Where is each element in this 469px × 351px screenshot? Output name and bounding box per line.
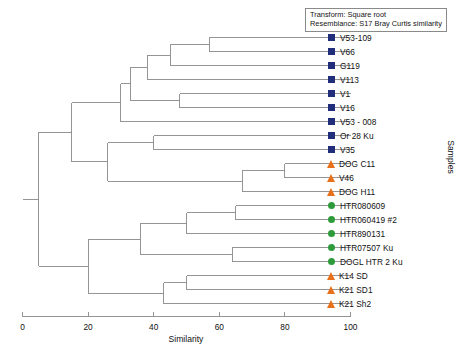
leaf-label: K21 Sh2 <box>339 299 371 309</box>
x-tick-label: 40 <box>149 322 158 332</box>
leaf-row[interactable]: K21 Sh2 <box>327 297 371 311</box>
leaf-row[interactable]: V53 - 008 <box>327 115 376 129</box>
circle-marker-icon <box>328 216 335 223</box>
leaf-label: DOGL HTR 2 Ku <box>340 257 403 267</box>
x-tick-label: 80 <box>280 322 289 332</box>
dendrogram-figure: Transform: Square root Resemblance: S17 … <box>0 0 469 351</box>
leaf-label: G119 <box>340 61 360 71</box>
leaf-label: HTR080609 <box>340 201 385 211</box>
leaf-row[interactable]: HTR060419 #2 <box>327 213 397 227</box>
triangle-marker-icon <box>327 300 335 308</box>
square-marker-icon <box>328 146 335 153</box>
leaf-label: K21 SD1 <box>339 285 373 295</box>
leaf-row[interactable]: K14 SD <box>327 269 368 283</box>
leaf-label: V53 - 008 <box>340 117 376 127</box>
leaf-row[interactable]: V113 <box>327 73 359 87</box>
x-tick-label: 0 <box>20 322 25 332</box>
leaf-row[interactable]: V1 <box>327 87 350 101</box>
square-marker-icon <box>328 62 335 69</box>
square-marker-icon <box>328 76 335 83</box>
square-marker-icon <box>328 104 335 111</box>
leaf-row[interactable]: Or 28 Ku <box>327 129 374 143</box>
leaf-row[interactable]: V46 <box>327 171 354 185</box>
square-marker-icon <box>328 34 335 41</box>
leaf-label: V46 <box>339 173 354 183</box>
square-marker-icon <box>328 90 335 97</box>
triangle-marker-icon <box>327 174 335 182</box>
square-marker-icon <box>328 118 335 125</box>
leaf-row[interactable]: HTR07507 Ku <box>327 241 393 255</box>
dendrogram-plot <box>0 0 469 351</box>
transform-caption-box: Transform: Square root Resemblance: S17 … <box>305 8 447 32</box>
leaf-row[interactable]: DOGL HTR 2 Ku <box>327 255 403 269</box>
leaf-label: Or 28 Ku <box>340 131 374 141</box>
leaf-label: DOG C11 <box>339 159 375 169</box>
leaf-row[interactable]: DOG H11 <box>327 185 375 199</box>
square-marker-icon <box>328 132 335 139</box>
leaf-label: V53-109 <box>340 33 372 43</box>
leaf-row[interactable]: V66 <box>327 45 355 59</box>
x-tick-label: 100 <box>344 322 358 332</box>
leaf-row[interactable]: V16 <box>327 101 355 115</box>
leaf-row[interactable]: HTR890131 <box>327 227 385 241</box>
leaf-label: K14 SD <box>339 271 368 281</box>
triangle-marker-icon <box>327 272 335 280</box>
x-axis-title: Similarity <box>0 334 372 344</box>
leaf-label: HTR890131 <box>340 229 385 239</box>
leaf-label: V1 <box>340 89 350 99</box>
leaf-row[interactable]: V53-109 <box>327 31 372 45</box>
circle-marker-icon <box>328 258 335 265</box>
leaf-row[interactable]: HTR080609 <box>327 199 385 213</box>
square-marker-icon <box>328 48 335 55</box>
circle-marker-icon <box>328 230 335 237</box>
leaf-row[interactable]: V35 <box>327 143 355 157</box>
leaf-label: HTR07507 Ku <box>340 243 393 253</box>
leaf-label: V35 <box>340 145 355 155</box>
triangle-marker-icon <box>327 286 335 294</box>
leaf-label: V66 <box>340 47 355 57</box>
leaf-row[interactable]: K21 SD1 <box>327 283 373 297</box>
circle-marker-icon <box>328 202 335 209</box>
leaf-row[interactable]: G119 <box>327 59 360 73</box>
leaf-label: V113 <box>340 75 359 85</box>
x-tick-label: 20 <box>83 322 92 332</box>
y-axis-title: Samples <box>445 140 455 173</box>
circle-marker-icon <box>328 244 335 251</box>
leaf-label: HTR060419 #2 <box>340 215 397 225</box>
leaf-row[interactable]: DOG C11 <box>327 157 375 171</box>
x-tick-label: 60 <box>215 322 224 332</box>
leaf-label: V16 <box>340 103 355 113</box>
triangle-marker-icon <box>327 188 335 196</box>
triangle-marker-icon <box>327 160 335 168</box>
caption-resemblance-line: Resemblance: S17 Bray Curtis similarity <box>310 20 442 29</box>
leaf-label: DOG H11 <box>339 187 375 197</box>
